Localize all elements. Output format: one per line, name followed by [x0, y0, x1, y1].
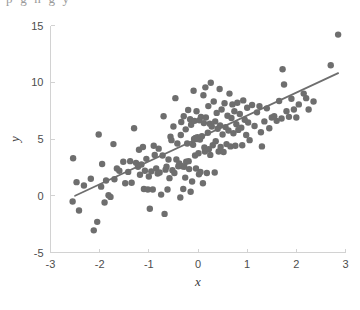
y-axis-title: y: [7, 136, 22, 144]
data-point: [204, 170, 210, 176]
x-axis-title: x: [194, 274, 201, 289]
data-point: [183, 126, 189, 132]
data-point: [168, 137, 174, 143]
data-point: [293, 114, 299, 120]
data-point: [286, 114, 292, 120]
data-point: [70, 155, 76, 161]
data-point: [177, 194, 183, 200]
data-point: [155, 145, 161, 151]
data-point: [181, 113, 187, 119]
data-point: [226, 90, 232, 96]
data-point: [161, 211, 167, 217]
x-tick-label: -1: [144, 258, 154, 270]
regression-line: [75, 73, 338, 196]
x-tick-label: 3: [342, 258, 348, 270]
data-point: [283, 108, 289, 114]
data-point: [189, 178, 195, 184]
data-point: [245, 119, 251, 125]
data-point: [88, 176, 94, 182]
data-point: [202, 84, 208, 90]
data-point: [278, 115, 284, 121]
x-tick-label: -3: [46, 258, 56, 270]
data-point: [239, 142, 245, 148]
data-point: [142, 168, 148, 174]
data-point: [182, 174, 188, 180]
data-point: [101, 199, 107, 205]
data-point: [197, 169, 203, 175]
data-point: [147, 206, 153, 212]
data-point: [163, 164, 169, 170]
data-point: [160, 113, 166, 119]
data-point: [193, 108, 199, 114]
data-point: [251, 123, 257, 129]
data-point: [99, 161, 105, 167]
data-point: [180, 186, 186, 192]
regression-line-group: [75, 73, 338, 196]
y-tick-label: 5: [37, 133, 43, 145]
data-point: [122, 180, 128, 186]
data-point: [305, 106, 311, 112]
data-point: [291, 106, 297, 112]
data-point: [259, 143, 265, 149]
data-point: [234, 99, 240, 105]
x-tick-label: -2: [95, 258, 105, 270]
data-point: [178, 132, 184, 138]
data-point: [216, 86, 222, 92]
data-point: [212, 169, 218, 175]
data-point: [185, 158, 191, 164]
y-tick-label: 10: [31, 76, 43, 88]
data-point: [69, 198, 75, 204]
data-point: [190, 88, 196, 94]
scatter-plot: -3-2-10123-5051015 xy: [0, 0, 360, 310]
data-point: [150, 186, 156, 192]
y-tick-label: 15: [31, 20, 43, 32]
figure-container: p g n g y -3-2-10123-5051015 xy: [0, 0, 360, 310]
data-point: [171, 170, 177, 176]
data-point: [237, 111, 243, 117]
data-point: [310, 98, 316, 104]
data-point: [220, 149, 226, 155]
data-point: [261, 118, 267, 124]
data-point: [158, 191, 164, 197]
data-point: [232, 143, 238, 149]
data-point: [120, 159, 126, 165]
data-point: [238, 124, 244, 130]
data-point: [303, 95, 309, 101]
data-point: [208, 80, 214, 86]
data-point: [185, 107, 191, 113]
data-point: [221, 100, 227, 106]
data-point: [201, 120, 207, 126]
y-tick-label: -5: [34, 247, 44, 259]
data-point: [91, 227, 97, 233]
data-point: [76, 207, 82, 213]
data-point: [211, 98, 217, 104]
data-point: [172, 95, 178, 101]
x-tick-label: 2: [293, 258, 299, 270]
data-point: [95, 131, 101, 137]
data-point: [94, 219, 100, 225]
data-point: [228, 115, 234, 121]
data-point: [164, 186, 170, 192]
data-point: [156, 169, 162, 175]
data-point: [231, 108, 237, 114]
data-point: [165, 156, 171, 162]
data-point: [166, 175, 172, 181]
y-tick-label: 0: [37, 190, 43, 202]
data-point: [207, 152, 213, 158]
data-point: [258, 129, 264, 135]
data-point: [281, 81, 287, 87]
data-point: [128, 180, 134, 186]
data-point: [219, 131, 225, 137]
data-point: [205, 103, 211, 109]
data-point: [240, 97, 246, 103]
data-point: [213, 138, 219, 144]
data-point: [218, 106, 224, 112]
data-point: [186, 166, 192, 172]
data-point: [335, 31, 341, 37]
data-point: [81, 182, 87, 188]
data-point: [187, 189, 193, 195]
data-point: [279, 66, 285, 72]
data-point: [203, 114, 209, 120]
data-point: [178, 119, 184, 125]
x-tick-label: 0: [195, 258, 201, 270]
